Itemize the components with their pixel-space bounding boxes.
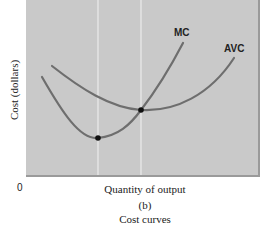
avc-label: AVC xyxy=(224,43,244,54)
y-axis-label: Cost (dollars) xyxy=(8,60,20,120)
panel-label: (b) xyxy=(0,199,264,211)
chart-caption: Cost curves xyxy=(0,213,264,225)
avc-curve xyxy=(52,58,234,110)
mc-label: MC xyxy=(174,27,190,38)
mc-minimum-point xyxy=(95,135,101,141)
x-axis-label: Quantity of output xyxy=(0,183,264,195)
mc-curve xyxy=(42,43,183,138)
mc-avc-intersection-point xyxy=(138,107,144,113)
